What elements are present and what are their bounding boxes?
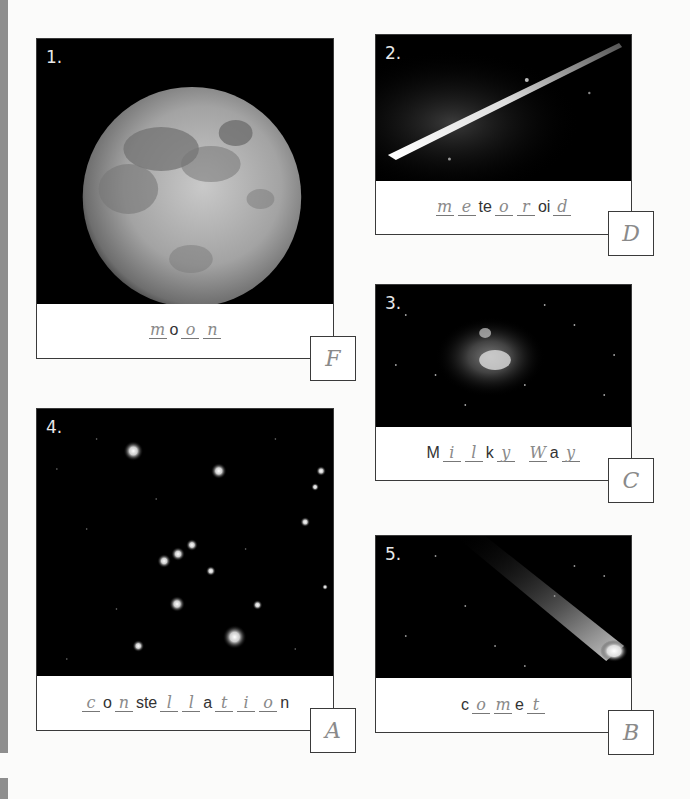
card-moon: 1. moon: [36, 38, 334, 359]
meteoroid-photo: 2.: [376, 35, 631, 181]
word-fill-in: MilkyWay: [376, 426, 631, 480]
word-fill-in: constellation: [37, 676, 333, 730]
card-constellation: 4. constellation: [36, 408, 334, 731]
printed-letters: oi: [537, 198, 551, 216]
printed-letters: o: [102, 694, 113, 712]
printed-letters: ste: [135, 694, 158, 712]
letter-blank[interactable]: e: [458, 199, 476, 216]
answer-box-milky-way[interactable]: C: [608, 458, 654, 503]
card-number: 3.: [385, 293, 401, 313]
letter-blank[interactable]: o: [472, 697, 490, 714]
page-edge-strip-top: [0, 0, 8, 753]
letter-blank[interactable]: i: [443, 445, 461, 462]
comet-photo: 5.: [376, 536, 631, 678]
milky-way-photo: 3.: [376, 285, 631, 427]
answer-box-constellation[interactable]: A: [310, 708, 356, 753]
word: constellation: [80, 694, 290, 712]
letter-blank[interactable]: d: [553, 199, 571, 216]
page-edge-strip-bottom: [0, 778, 8, 799]
card-milky-way: 3. MilkyWay: [375, 284, 632, 481]
letter-blank[interactable]: o: [181, 322, 199, 339]
letter-blank[interactable]: m: [436, 199, 454, 216]
word: meteoroid: [434, 198, 574, 216]
letter-blank[interactable]: l: [465, 445, 483, 462]
letter-blank[interactable]: W: [529, 445, 547, 462]
answer-box-moon[interactable]: F: [310, 336, 356, 381]
printed-letters: M: [425, 444, 440, 462]
card-number: 2.: [385, 43, 401, 63]
word-fill-in: comet: [376, 677, 631, 732]
answer-box-comet[interactable]: B: [608, 710, 654, 755]
letter-blank[interactable]: n: [115, 695, 133, 712]
letter-blank[interactable]: o: [495, 199, 513, 216]
printed-letters: a: [549, 444, 560, 462]
word-fill-in: meteoroid: [376, 180, 631, 234]
letter-blank[interactable]: y: [497, 445, 515, 462]
moon-photo: 1.: [37, 39, 333, 304]
word: comet: [460, 696, 547, 714]
printed-letters: o: [169, 321, 180, 339]
card-comet: 5. comet: [375, 535, 632, 733]
word: MilkyWay: [425, 444, 581, 462]
letter-blank[interactable]: l: [160, 695, 178, 712]
letter-blank[interactable]: o: [259, 695, 277, 712]
word: moon: [147, 321, 224, 339]
printed-letters: n: [279, 694, 290, 712]
letter-blank[interactable]: n: [203, 322, 221, 339]
letter-blank[interactable]: t: [215, 695, 233, 712]
letter-blank[interactable]: r: [517, 199, 535, 216]
letter-blank[interactable]: i: [237, 695, 255, 712]
card-number: 5.: [385, 544, 401, 564]
letter-blank[interactable]: c: [82, 695, 100, 712]
word-fill-in: moon: [37, 302, 333, 358]
letter-blank[interactable]: m: [149, 322, 167, 339]
printed-letters: te: [478, 198, 493, 216]
card-meteoroid: 2. meteoroid: [375, 34, 632, 235]
letter-blank[interactable]: l: [182, 695, 200, 712]
printed-letters: a: [202, 694, 213, 712]
letter-blank[interactable]: t: [527, 697, 545, 714]
printed-letters: e: [514, 696, 525, 714]
answer-box-meteoroid[interactable]: D: [608, 211, 654, 256]
letter-blank[interactable]: m: [494, 697, 512, 714]
printed-letters: c: [460, 696, 470, 714]
card-number: 4.: [46, 417, 62, 437]
card-number: 1.: [46, 47, 62, 67]
letter-blank[interactable]: y: [562, 445, 580, 462]
constellation-photo: 4.: [37, 409, 333, 676]
printed-letters: k: [485, 444, 495, 462]
